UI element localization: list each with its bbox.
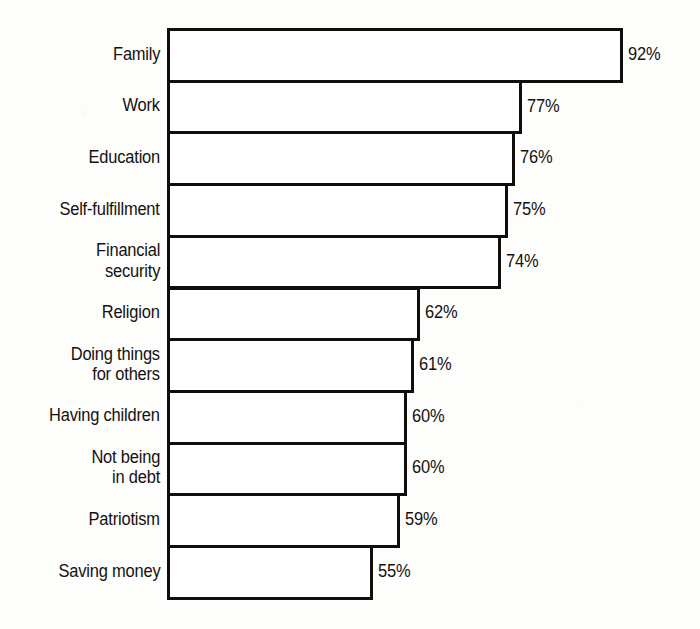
bar-row: Not being in debt60% — [0, 442, 700, 494]
category-label: Not being in debt — [91, 447, 160, 488]
bar-segment — [167, 390, 407, 445]
category-label: Work — [123, 95, 160, 116]
bar-value-label: 59% — [405, 509, 437, 529]
category-label: Family — [113, 44, 160, 65]
bar-row: Education76% — [0, 131, 700, 183]
bar-segment — [167, 545, 373, 600]
category-label: Having children — [49, 405, 160, 426]
bar-row: Having children60% — [0, 390, 700, 442]
bar-value-label: 92% — [628, 44, 660, 64]
bar-segment — [167, 80, 522, 135]
bar-row: Doing things for others61% — [0, 338, 700, 390]
bar-segment — [167, 338, 414, 393]
bar-value-label: 74% — [506, 251, 538, 271]
bar-row: Self-fulfillment75% — [0, 183, 700, 235]
bar-row: Patriotism59% — [0, 493, 700, 545]
category-label: Patriotism — [89, 509, 160, 530]
bar-segment — [167, 235, 501, 290]
bar-value-label: 60% — [412, 457, 444, 477]
bar-row: Religion62% — [0, 287, 700, 339]
bar-segment — [167, 442, 407, 497]
category-label: Saving money — [58, 561, 160, 582]
bar-value-label: 76% — [520, 147, 552, 167]
bar-value-label: 62% — [425, 302, 457, 322]
bar-value-label: 60% — [412, 406, 444, 426]
bar-segment — [167, 183, 508, 238]
category-label: Self-fulfillment — [60, 199, 160, 220]
bar-chart: Family92%Work77%Education76%Self-fulfill… — [0, 0, 700, 629]
bar-segment — [167, 287, 420, 342]
category-label: Education — [89, 147, 160, 168]
bar-value-label: 77% — [527, 96, 559, 116]
bar-value-label: 75% — [513, 199, 545, 219]
bar-segment — [167, 493, 400, 548]
bar-value-label: 61% — [419, 354, 451, 374]
category-label: Religion — [102, 302, 160, 323]
bar-row: Family92% — [0, 28, 700, 80]
bar-value-label: 55% — [378, 561, 410, 581]
bar-row: Financial security74% — [0, 235, 700, 287]
category-label: Doing things for others — [71, 344, 160, 385]
bar-row: Saving money55% — [0, 545, 700, 597]
bar-segment — [167, 28, 623, 83]
bar-row: Work77% — [0, 80, 700, 132]
category-label: Financial security — [96, 240, 160, 281]
bar-segment — [167, 131, 515, 186]
